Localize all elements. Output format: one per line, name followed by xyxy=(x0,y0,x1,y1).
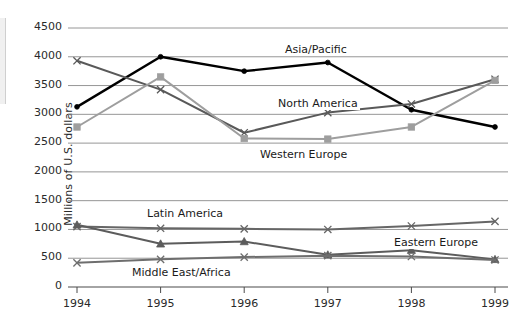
x-tick-label-1998: 1998 xyxy=(381,297,441,310)
y-tick-label-4500: 4500 xyxy=(20,20,62,33)
series-label-western-europe: Western Europe xyxy=(258,148,349,161)
data-point-western-europe-1995 xyxy=(157,74,163,80)
data-point-western-europe-1998 xyxy=(408,124,414,130)
y-tick-label-3000: 3000 xyxy=(20,106,62,119)
data-point-western-europe-1999 xyxy=(492,77,498,83)
x-tick-label-1996: 1996 xyxy=(214,297,274,310)
data-point-asia-pacific-1998 xyxy=(409,107,414,112)
series-middle-east-africa xyxy=(73,252,498,266)
y-tick-label-500: 500 xyxy=(20,250,62,263)
data-point-asia-pacific-1999 xyxy=(493,125,498,130)
data-point-asia-pacific-1996 xyxy=(242,69,247,74)
series-asia-pacific xyxy=(75,54,498,129)
series-line-middle-east-africa xyxy=(77,256,495,263)
x-tick-label-1995: 1995 xyxy=(131,297,191,310)
y-tick-label-3500: 3500 xyxy=(20,78,62,91)
y-tick-label-2500: 2500 xyxy=(20,135,62,148)
series-line-latin-america xyxy=(77,221,495,229)
y-tick-label-2000: 2000 xyxy=(20,164,62,177)
y-tick-label-1500: 1500 xyxy=(20,193,62,206)
y-tick-label-1000: 1000 xyxy=(20,221,62,234)
y-tick-label-4000: 4000 xyxy=(20,49,62,62)
x-tick-label-1994: 1994 xyxy=(47,297,107,310)
series-label-eastern-europe: Eastern Europe xyxy=(392,236,480,249)
data-point-asia-pacific-1994 xyxy=(75,104,80,109)
series-label-north-america: North America xyxy=(276,97,360,110)
series-label-asia-pacific: Asia/Pacific xyxy=(283,43,349,56)
y-tick-label-0: 0 xyxy=(20,279,62,292)
x-ticks-group xyxy=(77,287,495,293)
x-tick-label-1999: 1999 xyxy=(465,297,525,310)
data-point-western-europe-1997 xyxy=(325,136,331,142)
data-point-western-europe-1996 xyxy=(241,135,247,141)
line-chart: Millions of U.S. dollars 050010001500200… xyxy=(0,0,525,327)
series-label-latin-america: Latin America xyxy=(145,207,225,220)
data-point-asia-pacific-1995 xyxy=(158,54,163,59)
data-point-asia-pacific-1997 xyxy=(325,60,330,65)
data-point-western-europe-1994 xyxy=(74,124,80,130)
x-tick-label-1997: 1997 xyxy=(298,297,358,310)
series-label-middle-east-africa: Middle East/Africa xyxy=(130,266,233,279)
series-latin-america xyxy=(73,218,498,233)
plot-area xyxy=(0,0,525,327)
